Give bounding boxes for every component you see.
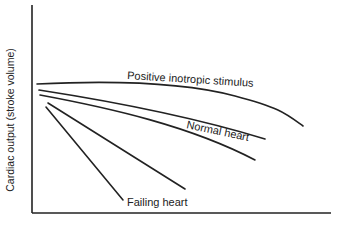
curve-positive-inotropic	[37, 83, 303, 127]
label-normal-heart: Normal heart	[186, 118, 251, 143]
curve-failing-upper	[48, 103, 185, 189]
chart: Cardiac output (stroke volume) Positive …	[0, 0, 339, 229]
label-failing-heart: Failing heart	[127, 196, 188, 208]
y-axis-label: Cardiac output (stroke volume)	[4, 48, 16, 192]
label-positive-inotropic: Positive inotropic stimulus	[127, 69, 255, 89]
curve-failing-lower	[46, 107, 123, 200]
